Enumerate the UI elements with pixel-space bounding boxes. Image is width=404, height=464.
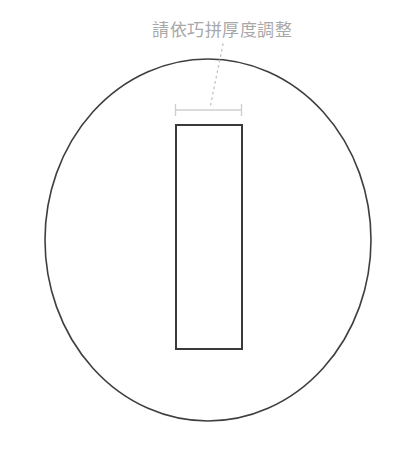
annotation-label: 請依巧拼厚度調整 bbox=[152, 19, 306, 41]
dotted-leader-line bbox=[210, 44, 223, 108]
technical-drawing-svg bbox=[0, 0, 404, 464]
inner-rectangle bbox=[176, 125, 242, 349]
width-dimension-line bbox=[175, 104, 242, 116]
outer-circle bbox=[45, 59, 371, 421]
drawing-canvas: 請依巧拼厚度調整 bbox=[0, 0, 404, 464]
